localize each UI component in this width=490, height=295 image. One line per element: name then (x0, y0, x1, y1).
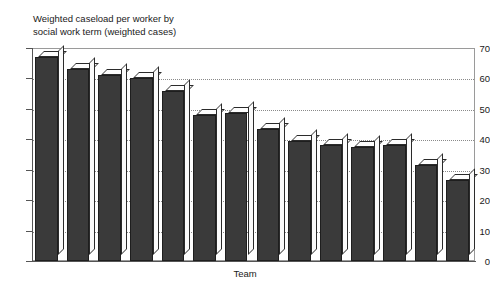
x-axis-line (32, 261, 476, 262)
y-axis-tick-label: 40 (466, 134, 490, 145)
y-axis-tick (26, 139, 32, 140)
chart-title-line-1: Weighted caseload per worker by (33, 13, 176, 26)
y-axis-tick-label: 70 (466, 43, 490, 54)
chart-container: Weighted caseload per worker by social w… (0, 0, 490, 295)
x-axis-label: Team (0, 268, 490, 279)
plot-area (32, 48, 475, 261)
gridline (33, 140, 474, 141)
gridline (33, 110, 474, 111)
gridline (33, 171, 474, 172)
y-axis-tick-label: 30 (466, 164, 490, 175)
y-axis-tick (26, 200, 32, 201)
y-axis-tick (26, 48, 32, 49)
chart-title: Weighted caseload per worker by social w… (33, 13, 176, 38)
y-axis-line (32, 48, 33, 262)
gridline (33, 201, 474, 202)
y-axis-tick (26, 231, 32, 232)
y-axis-tick-label: 60 (466, 73, 490, 84)
y-axis-tick-label: 50 (466, 103, 490, 114)
y-axis-tick (26, 170, 32, 171)
y-axis-tick (26, 78, 32, 79)
gridline (33, 232, 474, 233)
y-axis-tick-label: 20 (466, 195, 490, 206)
y-axis-tick (26, 109, 32, 110)
gridline (33, 79, 474, 80)
y-axis-tick-label: 10 (466, 225, 490, 236)
chart-title-line-2: social work term (weighted cases) (33, 26, 176, 39)
